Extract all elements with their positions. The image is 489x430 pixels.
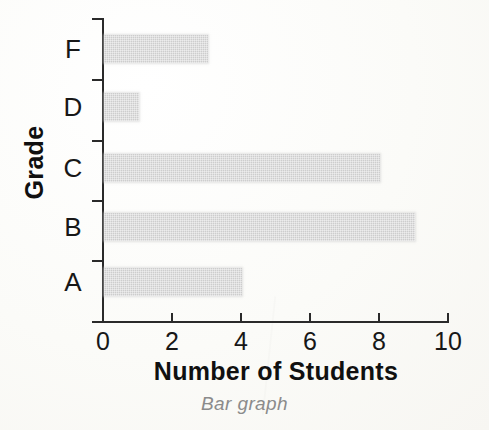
y-axis-label-a: A (58, 268, 88, 296)
x-axis-tick (102, 313, 104, 323)
x-axis-tick (378, 313, 380, 323)
y-axis-tick (92, 18, 103, 20)
x-axis-tick (309, 313, 311, 323)
bar-grade-b (104, 213, 415, 241)
x-axis-tick-label-8: 8 (353, 326, 405, 356)
y-axis-tick (92, 79, 103, 81)
bar-graph-figure: F D C B A 0 2 4 6 8 10 Number of Student… (0, 0, 489, 430)
y-axis-label-d: D (58, 93, 88, 121)
y-axis-label-b: B (58, 213, 88, 241)
x-axis-tick-label-10: 10 (422, 326, 474, 356)
x-axis-line (102, 321, 449, 323)
y-axis-title: Grade (20, 53, 49, 273)
figure-caption: Bar graph (0, 393, 489, 415)
x-axis-tick-label-6: 6 (284, 326, 336, 356)
bar-grade-d (104, 93, 139, 121)
x-axis-title: Number of Students (103, 357, 449, 386)
x-axis-tick-label-2: 2 (146, 326, 198, 356)
bar-grade-f (104, 35, 208, 63)
x-axis-tick (240, 313, 242, 323)
x-axis-tick-label-0: 0 (77, 326, 129, 356)
y-axis-label-c: C (58, 154, 88, 182)
y-axis-label-f: F (58, 35, 88, 63)
x-axis-tick (171, 313, 173, 323)
plot-area: F D C B A 0 2 4 6 8 10 Number of Student… (0, 0, 489, 430)
x-axis-tick (447, 313, 449, 323)
y-axis-tick (92, 200, 103, 202)
bar-grade-a (104, 268, 242, 296)
y-axis-tick (92, 140, 103, 142)
x-axis-tick-label-4: 4 (215, 326, 267, 356)
y-axis-tick (92, 260, 103, 262)
bar-grade-c (104, 154, 380, 182)
